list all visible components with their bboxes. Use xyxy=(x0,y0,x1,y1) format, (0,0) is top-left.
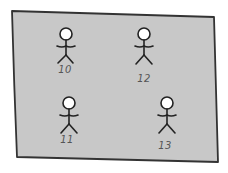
figure-label-10: 10 xyxy=(58,64,72,75)
person-head-icon xyxy=(161,97,173,109)
person-head-icon xyxy=(138,28,150,40)
diagram-canvas: 10 12 11 13 xyxy=(0,0,228,173)
figure-label-12: 12 xyxy=(137,73,151,84)
figure-label-13: 13 xyxy=(158,140,172,151)
person-head-icon xyxy=(63,97,75,109)
figure-label-11: 11 xyxy=(60,134,74,145)
panel-background xyxy=(12,11,218,162)
person-head-icon xyxy=(60,28,72,40)
